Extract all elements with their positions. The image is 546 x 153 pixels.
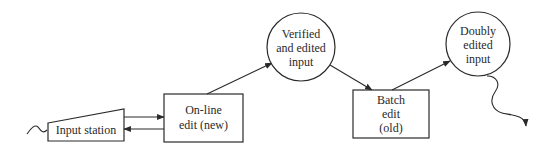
diagram-canvas: Input station On-line edit (new) Verifie… bbox=[0, 0, 546, 153]
doubly-label-line3: input bbox=[466, 52, 491, 66]
verified-label-line1: Verified bbox=[282, 27, 321, 41]
doubly-label-line1: Doubly bbox=[460, 24, 496, 38]
input-station-label: Input station bbox=[56, 123, 116, 137]
incoming-wavy-line bbox=[27, 126, 47, 134]
doubly-edited-node: Doubly edited input bbox=[446, 12, 510, 76]
verified-label-line3: input bbox=[289, 55, 314, 69]
input-station-node: Input station bbox=[48, 109, 124, 141]
arrow-verified-to-batch bbox=[330, 65, 372, 90]
arrow-batch-to-doubly bbox=[392, 61, 450, 90]
verified-label-line2: and edited bbox=[276, 41, 326, 55]
arrow-online-to-verified bbox=[207, 63, 272, 94]
batch-edit-node: Batch edit (old) bbox=[353, 90, 429, 138]
online-edit-node: On-line edit (new) bbox=[164, 94, 243, 142]
doubly-label-line2: edited bbox=[463, 38, 492, 52]
batch-label-line1: Batch bbox=[377, 93, 405, 107]
verified-input-node: Verified and edited input bbox=[267, 13, 335, 81]
online-edit-label-line2: edit (new) bbox=[179, 118, 228, 132]
outgoing-wavy-arrow bbox=[487, 76, 526, 126]
batch-label-line3: (old) bbox=[379, 121, 402, 135]
batch-label-line2: edit bbox=[382, 107, 401, 121]
online-edit-label-line1: On-line bbox=[185, 103, 222, 117]
